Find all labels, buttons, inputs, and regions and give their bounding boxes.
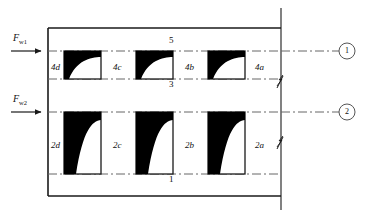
segment-box-4b xyxy=(208,51,245,79)
segment-label-2a: 2a xyxy=(255,141,264,150)
callout-number-1[interactable]: 1 xyxy=(340,47,354,55)
diagram-canvas: Fw1 Fw2 4d 4c 4b 4a 2d 2c 2b 2a 5 3 1 1 … xyxy=(0,0,366,218)
segment-label-4b: 4b xyxy=(185,63,194,72)
node-label-5: 5 xyxy=(169,36,174,45)
segment-box-4c xyxy=(136,51,173,79)
diagram-svg xyxy=(0,0,366,218)
break-lower-icon xyxy=(277,136,283,149)
callout-number-2[interactable]: 2 xyxy=(340,108,354,116)
segment-label-4a: 4a xyxy=(255,63,264,72)
force-subscript-fw2: w2 xyxy=(19,99,27,106)
segment-label-2b: 2b xyxy=(185,141,194,150)
force-label-fw1: Fw1 xyxy=(13,33,27,46)
break-upper-icon xyxy=(277,75,283,88)
node-label-3: 3 xyxy=(169,80,174,89)
force-subscript-fw1: w1 xyxy=(19,38,27,45)
segment-label-2c: 2c xyxy=(113,141,122,150)
segment-box-2b xyxy=(208,112,245,174)
segment-label-2d: 2d xyxy=(51,141,60,150)
segment-box-2d xyxy=(64,112,101,174)
segment-label-4c: 4c xyxy=(113,63,122,72)
segment-box-2c xyxy=(136,112,173,174)
segment-label-4d: 4d xyxy=(51,63,60,72)
node-label-1: 1 xyxy=(169,175,174,184)
force-label-fw2: Fw2 xyxy=(13,94,27,107)
segment-box-4d xyxy=(64,51,101,79)
